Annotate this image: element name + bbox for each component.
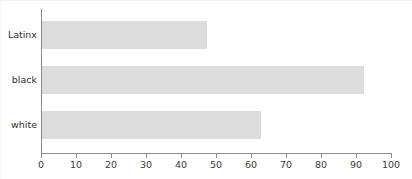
x-tick-label-100: 100 <box>382 159 400 170</box>
x-tick-label-50: 50 <box>210 159 222 170</box>
x-tick-label-40: 40 <box>175 159 187 170</box>
category-label-black: black <box>12 74 37 85</box>
bar-latinx <box>42 21 207 49</box>
x-tick-60 <box>251 153 252 158</box>
x-tick-10 <box>76 153 77 158</box>
category-label-latinx: Latinx <box>8 29 37 40</box>
x-tick-label-70: 70 <box>280 159 292 170</box>
x-tick-label-80: 80 <box>315 159 327 170</box>
bar-black <box>42 66 364 94</box>
x-tick-80 <box>321 153 322 158</box>
x-tick-label-90: 90 <box>350 159 362 170</box>
x-tick-label-60: 60 <box>245 159 257 170</box>
x-tick-40 <box>181 153 182 158</box>
x-tick-0 <box>41 153 42 158</box>
bar-chart: Latinx black white 010203040506070809010… <box>0 0 412 179</box>
x-tick-label-10: 10 <box>70 159 82 170</box>
x-tick-label-30: 30 <box>140 159 152 170</box>
category-label-white: white <box>11 119 37 130</box>
bar-white <box>42 111 261 139</box>
x-tick-30 <box>146 153 147 158</box>
x-tick-100 <box>391 153 392 158</box>
x-tick-label-0: 0 <box>38 159 44 170</box>
x-tick-50 <box>216 153 217 158</box>
plot-area: Latinx black white 010203040506070809010… <box>1 1 412 179</box>
x-tick-90 <box>356 153 357 158</box>
x-tick-20 <box>111 153 112 158</box>
x-tick-label-20: 20 <box>105 159 117 170</box>
x-tick-70 <box>286 153 287 158</box>
